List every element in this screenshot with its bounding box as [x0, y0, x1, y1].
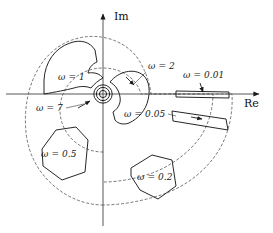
axes-group	[6, 14, 259, 226]
annotation-omega-0-01: ω = 0.01	[183, 71, 224, 80]
annotation-omega-2: ω = 2	[148, 62, 175, 71]
annotation-omega-0-2: ω = 0.2	[137, 173, 173, 182]
value-set-omega-0-01	[176, 91, 229, 98]
arrow-omega-0-01	[200, 83, 203, 92]
arrow-omega-2	[126, 77, 134, 85]
boundary-curves-group	[25, 36, 232, 205]
annotation-omega-0-05: ω = 0.05	[124, 110, 165, 119]
annotation-omega-0-5: ω = 0.5	[41, 150, 77, 159]
arrow-omega-7	[78, 101, 90, 108]
annotation-omega-1: ω = 1	[58, 73, 85, 82]
real-axis-label: Re	[244, 98, 259, 109]
value-set-omega-0-05	[172, 111, 228, 130]
value-sets-group	[42, 41, 229, 199]
arrow-omega-0-05	[191, 117, 202, 119]
imaginary-axis-label: Im	[114, 11, 129, 22]
annotation-omega-7: ω = 7	[36, 104, 63, 113]
leader-omega-2	[134, 72, 146, 84]
value-set-omega-1	[44, 41, 103, 94]
